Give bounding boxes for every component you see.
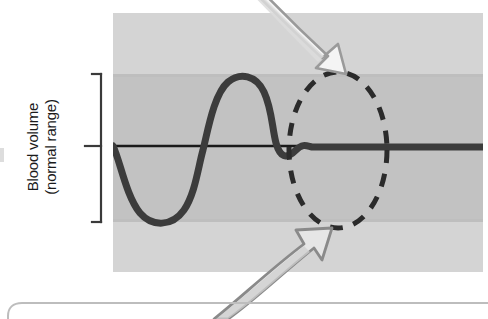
normal-range-bracket: [85, 74, 101, 222]
blood-volume-figure: Blood volume (normal range): [0, 0, 488, 319]
bottom-callout-box: [8, 303, 488, 319]
bottom-callout-box-outline: [8, 303, 488, 319]
left-edge-crop-mark: [0, 148, 4, 162]
figure-graphics: [0, 0, 488, 319]
band-top-edge-shadow: [113, 74, 483, 77]
